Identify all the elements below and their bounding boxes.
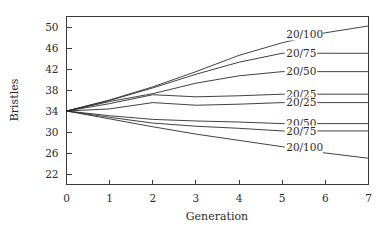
y-tick-label: 46	[45, 42, 59, 54]
y-tick-label: 38	[45, 84, 58, 96]
y-tick-label: 30	[45, 126, 58, 138]
y-tick-label: 42	[45, 63, 58, 75]
series-label: 20/100	[286, 28, 323, 40]
x-tick-label: 5	[279, 192, 286, 204]
series-label: 20/75	[286, 47, 316, 59]
series-label: 20/75	[286, 125, 316, 137]
y-tick-label: 34	[45, 105, 59, 117]
series-label: 20/100	[286, 141, 323, 153]
y-tick-label: 26	[45, 147, 59, 159]
x-tick-label: 0	[63, 192, 70, 204]
x-tick-label: 1	[106, 192, 113, 204]
y-axis-title: Bristles	[8, 78, 21, 121]
series-label: 20/25	[286, 96, 316, 108]
x-tick-label: 2	[149, 192, 156, 204]
bristles-generation-line-chart: 2226303438424650 01234567 20/10020/7520/…	[0, 0, 390, 230]
x-tick-label: 4	[236, 192, 243, 204]
y-tick-label: 22	[45, 168, 58, 180]
series-label: 20/50	[286, 65, 316, 77]
x-tick-label: 7	[365, 192, 372, 204]
x-tick-label: 6	[322, 192, 329, 204]
y-tick-label: 50	[45, 21, 58, 33]
x-tick-label: 3	[193, 192, 200, 204]
chart-canvas: 2226303438424650 01234567 20/10020/7520/…	[0, 0, 390, 230]
x-axis-title: Generation	[186, 210, 248, 223]
